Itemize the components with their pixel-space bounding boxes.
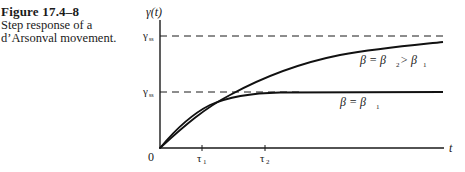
svg-text:1: 1: [203, 158, 207, 166]
tau1-label: τ 1: [197, 152, 207, 166]
step-response-plot: γ(t) t 0 γ ss γ ss τ 1 τ 2 β = β 2 > β 1…: [0, 0, 465, 172]
x-axis-label: t: [449, 141, 453, 155]
svg-text:1: 1: [376, 103, 380, 111]
svg-text:> β: > β: [400, 53, 417, 67]
gamma-ss-upper-label: γ ss: [142, 29, 154, 42]
y-axis-label: γ(t): [146, 5, 162, 19]
svg-text:τ: τ: [197, 152, 202, 164]
gamma-ss-lower-label: γ ss: [142, 85, 154, 98]
svg-text:ss: ss: [149, 36, 154, 42]
svg-text:1: 1: [423, 61, 427, 69]
beta1-annotation: β = β 1: [339, 95, 380, 111]
svg-text:β = β: β = β: [359, 53, 386, 67]
origin-label: 0: [148, 150, 154, 164]
curve-beta1: [160, 92, 443, 148]
svg-text:2: 2: [266, 158, 270, 166]
beta2-annotation: β = β 2 > β 1: [359, 53, 427, 69]
svg-text:γ: γ: [142, 85, 148, 97]
tau2-label: τ 2: [260, 152, 270, 166]
svg-text:τ: τ: [260, 152, 265, 164]
svg-text:β = β: β = β: [339, 95, 366, 109]
svg-text:γ: γ: [142, 29, 148, 41]
svg-text:ss: ss: [149, 92, 154, 98]
